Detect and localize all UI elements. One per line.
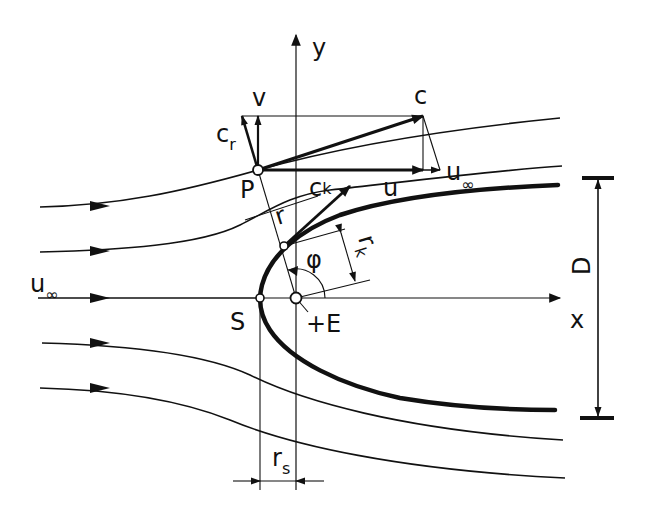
- label-u: u: [383, 174, 398, 202]
- streamline-4: [42, 343, 563, 440]
- y-axis-label: y: [312, 34, 326, 62]
- arrow-icon: [90, 246, 110, 256]
- label-r-k: rk: [347, 232, 384, 261]
- point-E: [291, 293, 302, 304]
- label-P: P: [240, 176, 254, 204]
- label-D: D: [568, 257, 596, 275]
- arrow-icon: [90, 293, 110, 303]
- vector-c-r: [242, 116, 258, 170]
- label-r: r: [271, 201, 289, 231]
- x-axis-label: x: [570, 306, 584, 334]
- half-body-flow-diagram: y x v c cr u u∞ P ck r φ rk u∞ S +E D rs: [0, 0, 650, 512]
- streamline-2: [40, 166, 562, 252]
- d-dimension: [580, 178, 614, 418]
- label-u-inf-freestream: u∞: [30, 270, 59, 304]
- label-phi: φ: [306, 246, 322, 274]
- svg-text:D: D: [568, 257, 596, 275]
- label-S: S: [230, 308, 245, 336]
- label-c-k: ck: [309, 174, 332, 202]
- point-S: [256, 294, 264, 302]
- label-r-s: rs: [272, 444, 290, 478]
- label-c-r: cr: [216, 120, 236, 154]
- label-u-inf: u∞: [446, 158, 475, 194]
- label-E: +E: [306, 310, 341, 338]
- label-v: v: [252, 84, 266, 112]
- label-c: c: [414, 82, 427, 110]
- svg-text:rk: rk: [347, 232, 384, 261]
- point-rk: [280, 242, 288, 250]
- vector-c: [258, 116, 423, 170]
- streamline-1: [40, 118, 560, 207]
- streamline-arrows: [90, 201, 110, 393]
- point-P: [253, 165, 263, 175]
